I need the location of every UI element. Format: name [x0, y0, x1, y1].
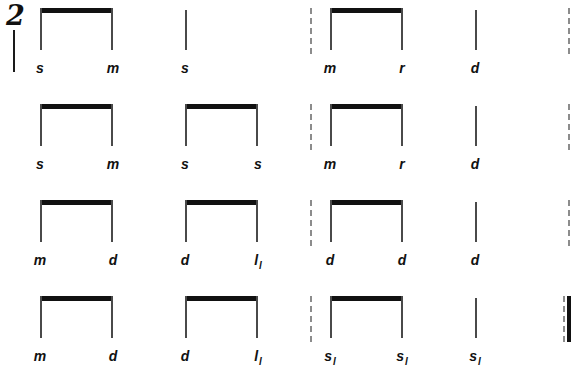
dashed-barline: [310, 296, 312, 342]
beamed-note-group: [40, 200, 113, 244]
beamed-note-group: [330, 200, 403, 244]
beamed-note-group: [40, 104, 113, 148]
note-stem: [40, 8, 42, 50]
final-barline: [563, 296, 571, 342]
beam: [330, 200, 403, 205]
note-stem: [40, 200, 42, 242]
beam: [40, 200, 113, 205]
note-stem: [185, 296, 187, 338]
beam: [330, 104, 403, 109]
solfa-syllable-letter: d: [326, 252, 335, 268]
solfa-syllable-letter: s: [36, 156, 44, 172]
solfa-syllable-letter: m: [324, 156, 336, 172]
solfa-syllable: d: [109, 252, 118, 268]
note-stem: [330, 296, 332, 338]
solfa-syllable: d: [181, 252, 190, 268]
solfa-syllable-letter: m: [107, 60, 119, 76]
note-stem: [256, 104, 258, 146]
dashed-barline: [310, 104, 312, 150]
solfa-syllable: s: [36, 60, 44, 76]
note-stem: [185, 104, 187, 146]
solfa-syllable: d: [398, 252, 407, 268]
note-stem: [401, 104, 403, 146]
single-note-stem: [475, 106, 477, 146]
note-stem: [330, 8, 332, 50]
solfa-syllable-letter: r: [399, 156, 404, 172]
solfa-syllable-letter: s: [181, 156, 189, 172]
note-stem: [256, 296, 258, 338]
solfa-syllable-letter: s: [469, 348, 477, 364]
solfa-syllable: r: [399, 60, 404, 76]
beamed-note-group: [185, 296, 258, 340]
lower-octave-mark: l: [477, 356, 481, 367]
dashed-barline: [310, 200, 312, 246]
solfa-syllable: s: [181, 156, 189, 172]
staff-row: mddllddd: [0, 192, 586, 287]
solfa-syllable: d: [471, 156, 480, 172]
solfa-syllable: d: [326, 252, 335, 268]
solfa-syllable-letter: m: [324, 60, 336, 76]
solfa-syllable: sl: [469, 348, 481, 367]
solfa-syllable: d: [471, 252, 480, 268]
dashed-barline: [568, 8, 570, 54]
dashed-barline: [310, 8, 312, 54]
note-stem: [111, 200, 113, 242]
note-stem: [185, 200, 187, 242]
beam: [330, 8, 403, 13]
solfa-syllable: d: [109, 348, 118, 364]
solfa-syllable: ll: [254, 348, 262, 367]
beamed-note-group: [185, 104, 258, 148]
staff-row: smsmrd: [0, 0, 586, 95]
solfa-syllable-letter: s: [181, 60, 189, 76]
solfa-syllable: m: [34, 252, 46, 268]
solfa-syllable-letter: m: [107, 156, 119, 172]
solfa-syllable: r: [399, 156, 404, 172]
solfa-syllable: sl: [396, 348, 408, 367]
final-barline-thick: [567, 296, 571, 342]
note-stem: [40, 104, 42, 146]
beam: [330, 296, 403, 301]
lower-octave-mark: l: [258, 260, 262, 271]
solfa-syllable: m: [34, 348, 46, 364]
solfa-syllable: m: [324, 60, 336, 76]
note-stem: [401, 8, 403, 50]
beam: [185, 200, 258, 205]
single-note-stem: [185, 10, 187, 50]
solfa-syllable-letter: s: [324, 348, 332, 364]
staff-row: mddllslslsl: [0, 288, 586, 383]
staff-row: smssmrd: [0, 96, 586, 191]
lower-octave-mark: l: [258, 356, 262, 367]
solfa-syllable-letter: d: [109, 252, 118, 268]
note-stem: [401, 296, 403, 338]
solfa-syllable: sl: [324, 348, 336, 367]
solfa-syllable: m: [107, 60, 119, 76]
solfa-syllable: d: [181, 348, 190, 364]
solfa-score-page: 2 smsmrdsmssmrdmddlldddmddllslslsl: [0, 0, 586, 390]
beam: [40, 8, 113, 13]
solfa-syllable: m: [107, 156, 119, 172]
solfa-syllable-letter: m: [34, 252, 46, 268]
single-note-stem: [475, 202, 477, 242]
solfa-syllable-letter: d: [471, 252, 480, 268]
note-stem: [111, 296, 113, 338]
solfa-syllable-letter: r: [399, 60, 404, 76]
note-stem: [330, 200, 332, 242]
dashed-barline: [568, 200, 570, 246]
beamed-note-group: [330, 104, 403, 148]
solfa-syllable-letter: d: [109, 348, 118, 364]
beam: [40, 296, 113, 301]
beam: [185, 296, 258, 301]
single-note-stem: [475, 298, 477, 338]
lower-octave-mark: l: [332, 356, 336, 367]
solfa-syllable-letter: d: [181, 348, 190, 364]
note-stem: [40, 296, 42, 338]
beamed-note-group: [185, 200, 258, 244]
lower-octave-mark: l: [404, 356, 408, 367]
final-barline-dash: [563, 296, 565, 342]
note-stem: [111, 104, 113, 146]
beamed-note-group: [40, 296, 113, 340]
note-stem: [256, 200, 258, 242]
solfa-syllable-letter: s: [36, 60, 44, 76]
dashed-barline: [568, 104, 570, 150]
note-stem: [330, 104, 332, 146]
